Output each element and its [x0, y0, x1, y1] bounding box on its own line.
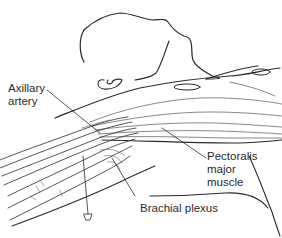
anatomy-diagram: Axillary artery Pectoralis major muscle …	[0, 0, 282, 238]
pectoralis-muscle	[90, 98, 282, 143]
label-pectoralis-major: Pectoralis major muscle	[207, 150, 258, 189]
label-axillary-artery: Axillary artery	[8, 82, 45, 108]
label-axillary-line2: artery	[8, 95, 45, 108]
label-axillary-line1: Axillary	[8, 82, 45, 95]
ear-icon	[98, 79, 122, 89]
needle-icon	[83, 156, 92, 220]
label-pectoralis-line2: major	[207, 163, 258, 176]
label-pectoralis-line3: muscle	[207, 176, 258, 189]
arm-bundle	[0, 117, 155, 226]
label-brachial-plexus: Brachial plexus	[140, 202, 218, 215]
head-outline	[80, 13, 219, 80]
nipple-left	[174, 84, 200, 90]
leader-lines	[47, 90, 206, 196]
leader-axillary-artery	[47, 90, 100, 133]
torso-contour	[55, 66, 280, 118]
label-pectoralis-line1: Pectoralis	[207, 150, 258, 163]
